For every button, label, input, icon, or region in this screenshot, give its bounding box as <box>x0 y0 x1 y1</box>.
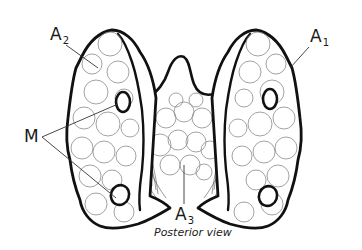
parathyroid-superior-left <box>116 92 130 112</box>
label-a3: A3 <box>175 206 194 226</box>
thyroid-diagram-posterior: A2 A1 M A3 Posterior view <box>0 0 362 250</box>
label-m: M <box>24 128 39 145</box>
isthmus <box>149 55 219 204</box>
right-lobe <box>198 30 301 228</box>
label-a2: A2 <box>50 26 69 46</box>
view-caption: Posterior view <box>154 226 232 239</box>
label-a1: A1 <box>310 28 329 48</box>
left-lobe <box>67 30 170 228</box>
